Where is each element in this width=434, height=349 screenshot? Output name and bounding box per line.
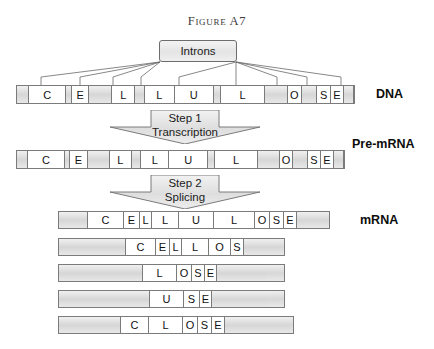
mrna-spacer: [225, 317, 290, 333]
pre-mrna-segment-exon: E: [69, 151, 87, 168]
mrna-spacer: [59, 291, 150, 307]
mrna-strip-row: U S E: [58, 290, 285, 308]
mrna-spacer: [59, 239, 126, 255]
dna-segment-exon: E: [71, 86, 89, 103]
pre-mrna-segment-intron: [333, 151, 344, 168]
dna-segment-intron: [301, 86, 318, 103]
mrna-letter-box: L: [142, 265, 177, 281]
mrna-spacer: [59, 265, 143, 281]
mrna-letter-box: L: [213, 212, 255, 228]
dna-segment-exon: L: [144, 86, 174, 103]
pre-mrna-row-label: Pre-mRNA: [352, 137, 415, 151]
introns-label: Introns: [180, 45, 215, 57]
dna-segment-intron: [343, 86, 354, 103]
mrna-letter-box: E: [199, 291, 212, 307]
step-1-arrow: Step 1 Transcription: [110, 110, 260, 144]
mrna-letter-box: U: [149, 291, 184, 307]
dna-segment-exon: L: [220, 86, 265, 103]
mrna-letter-box: L: [181, 239, 209, 255]
figure-title: Figure A7: [0, 14, 434, 29]
mrna-letter-box: E: [123, 212, 140, 228]
pre-mrna-segment-exon: C: [27, 151, 65, 168]
pre-mrna-segment-exon: E: [320, 151, 334, 168]
pre-mrna-segment-exon: S: [307, 151, 321, 168]
mrna-letter-box: C: [87, 212, 124, 228]
mrna-letter-box: S: [197, 317, 212, 333]
mrna-letter-box: O: [208, 239, 231, 255]
dna-segment-exon: E: [330, 86, 344, 103]
introns-callout-box: Introns: [159, 40, 237, 62]
mrna-spacer: [59, 212, 88, 228]
mrna-spacer: [244, 239, 280, 255]
mrna-letter-box: S: [269, 212, 284, 228]
mrna-spacer: [297, 212, 322, 228]
mrna-strip-row: C E L L O S: [58, 238, 285, 256]
mrna-letter-box: E: [211, 317, 225, 333]
mrna-letter-box: S: [191, 265, 205, 281]
dna-segment-intron: [264, 86, 288, 103]
mrna-letter-box: E: [204, 265, 217, 281]
mrna-letter-box: E: [155, 239, 170, 255]
dna-segment-exon: O: [287, 86, 302, 103]
mrna-letter-box: O: [182, 317, 198, 333]
mrna-letter-box: L: [148, 317, 183, 333]
mrna-strip-row: L O S E: [58, 264, 285, 282]
mrna-letter-box: L: [151, 212, 179, 228]
pre-mrna-segment-exon: U: [168, 151, 208, 168]
mrna-spacer: [217, 265, 266, 281]
mrna-letter-box: S: [183, 291, 200, 307]
dna-segment-intron: [88, 86, 112, 103]
figure-a7-diagram: Figure A7 Introns C E L L U L: [0, 0, 434, 349]
mrna-spacer: [59, 317, 121, 333]
mrna-strip-row: C L O S E: [58, 316, 294, 334]
step-2-arrow: Step 2 Splicing: [110, 175, 260, 209]
mrna-row-label: mRNA: [360, 213, 398, 227]
mrna-letter-box: S: [230, 239, 244, 255]
mrna-strip-row: C E L L U L O S E: [58, 211, 330, 229]
pre-mrna-strip: C E L L U L O S E: [16, 150, 345, 169]
pre-mrna-segment-exon: O: [279, 151, 294, 168]
pre-mrna-segment-exon: L: [109, 151, 132, 168]
dna-segment-exon: S: [316, 86, 331, 103]
dna-segment-exon: L: [111, 86, 135, 103]
dna-strip: C E L L U L O S E: [16, 85, 355, 104]
pre-mrna-segment-exon: L: [140, 151, 169, 168]
dna-segment-exon: U: [174, 86, 214, 103]
pre-mrna-segment-intron: [257, 151, 280, 168]
mrna-letter-box: O: [176, 265, 192, 281]
pre-mrna-segment-intron: [292, 151, 308, 168]
mrna-letter-box: E: [283, 212, 297, 228]
mrna-letter-box: O: [254, 212, 270, 228]
mrna-letter-box: C: [120, 317, 149, 333]
pre-mrna-segment-intron: [87, 151, 110, 168]
mrna-letter-box: C: [125, 239, 156, 255]
mrna-spacer: [212, 291, 267, 307]
pre-mrna-segment-exon: L: [214, 151, 257, 168]
dna-row-label: DNA: [376, 87, 403, 101]
dna-segment-exon: C: [28, 86, 66, 103]
mrna-letter-box: U: [178, 212, 214, 228]
